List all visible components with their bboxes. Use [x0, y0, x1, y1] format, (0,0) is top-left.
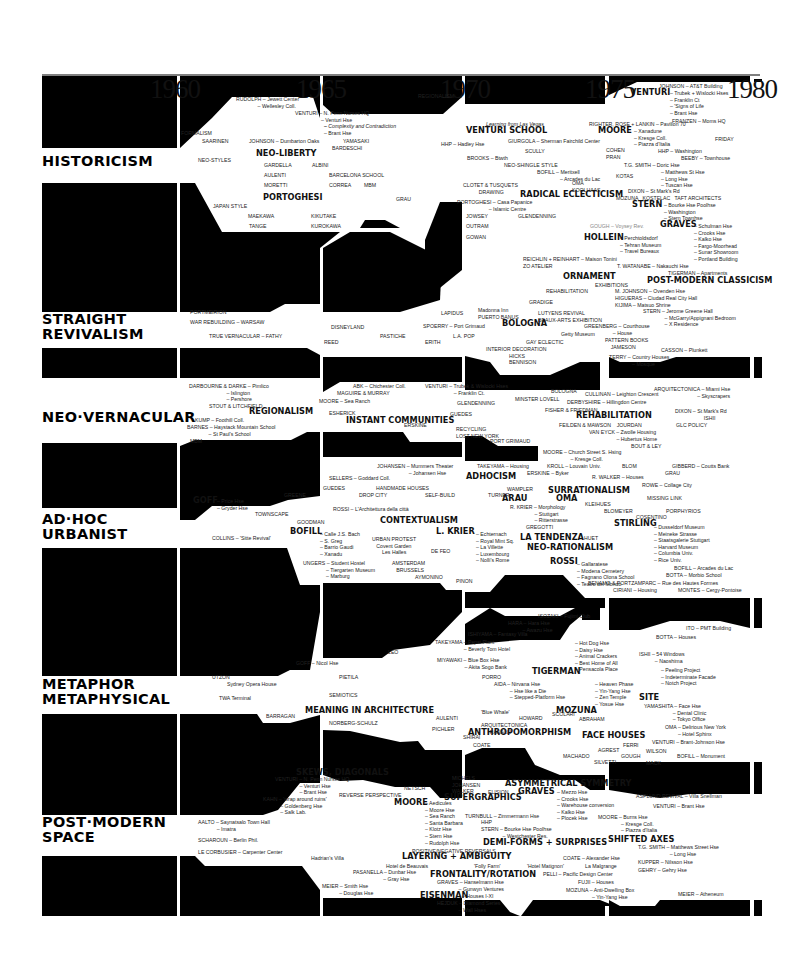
architect-label: T.G. SMITH – Doric Hse	[624, 162, 680, 169]
movement-label: SHIFTED AXES	[608, 835, 674, 844]
architect-label: ALBINI	[312, 162, 328, 169]
architect-label: MOZUNA – Anti-Dwelling Box – Yin-Yang Hs…	[566, 887, 634, 900]
architect-label: GIBBERD – Coutts Bank	[672, 463, 729, 470]
architect-label: HOWARD	[519, 715, 542, 722]
architect-label: BROOKS – Btwth	[467, 155, 508, 162]
architect-label: TANGE	[249, 223, 266, 230]
architect-label: 'Blue Whale'	[481, 709, 510, 716]
architect-label: BEEBY – Townhouse	[681, 155, 730, 162]
architect-label: DE FEO	[431, 548, 450, 555]
architect-label: PORTMEIRION	[190, 309, 227, 316]
architect-label: AALTO – Saynatsalo Town Hall – Imatra	[198, 819, 270, 832]
architect-label: RUDOLPH – Jewett Center – Wellesley Coll…	[236, 96, 299, 109]
architect-label: FORMALISM	[181, 130, 212, 137]
architect-label: LUTYENS REVIVAL BEAUX-ARTS EXHIBITION	[538, 310, 602, 323]
architect-label: GUEDES	[323, 485, 345, 492]
architect-label: REICHLIN + REINHART – Maison Tonini	[523, 256, 617, 263]
architect-label: BARNES – Haystack Mountain School – St P…	[187, 424, 276, 437]
architect-label: CULLINAN – Leighton Crescent	[585, 391, 659, 398]
movement-label: ROSSI	[550, 557, 578, 566]
category-heading: POST·MODERN SPACE	[42, 815, 166, 845]
movement-label: CONTEXTUALISM	[380, 516, 458, 525]
architect-label: GOFF – Nicol Hse	[296, 660, 338, 667]
architect-label: TRUE VERNACULAR – FATHY	[209, 333, 282, 340]
architect-label: YAMASHITA – Face Hse – Dental Clinic – T…	[644, 703, 706, 723]
movement-label: FACE HOUSES	[582, 731, 645, 740]
architect-label: URBAN PROTEST Covent Garden Les Halles	[372, 536, 416, 556]
architect-label: DISNEYLAND	[331, 324, 364, 331]
architect-label: ISOZAKI – Fujimi Club	[538, 613, 590, 620]
category-heading: NEO·VERNACULAR	[42, 410, 196, 425]
movement-label: DEMI-FORMS + SURPRISES	[483, 838, 607, 847]
movement-label: NEO-LIBERTY	[256, 149, 317, 158]
architect-label: TIGERMAN – Apartments	[668, 270, 727, 277]
architect-label: SHIRAI	[463, 734, 480, 741]
architect-label: SCOLARI	[552, 711, 575, 718]
architect-label: ROWE – Collage City	[642, 482, 692, 489]
architect-label: JOHNSON – Dumbarton Oaks	[249, 138, 319, 145]
architect-label: AMSTERDAM BRUSSELS	[392, 560, 425, 573]
movement-label: MEANING IN ARCHITECTURE	[305, 706, 434, 715]
architect-label: KUPPER – Nilsson Hse	[638, 859, 693, 866]
architect-label: AULENTI	[264, 172, 286, 179]
category-heading: METAPHOR METAPHYSICAL	[42, 677, 170, 707]
movement-label: GRAVES	[518, 787, 555, 796]
architect-label: MOORE – Sea Ranch	[319, 398, 370, 405]
architect-label: PATTERN BOOKS JAMESON	[605, 337, 648, 350]
architect-label: DIXON – St Mark's Rd ISHII	[675, 408, 727, 421]
architect-label: – Price Hse – Gryder Hse	[217, 498, 248, 511]
architect-label: GEHRY – Gehry Hse	[638, 867, 687, 874]
architect-label: SILVETTI	[594, 759, 616, 766]
architect-label: HHP – Hadley Hse	[441, 141, 484, 148]
movement-label: L. KRIER	[436, 527, 475, 536]
architect-label: ABK – Chichester Coll.	[353, 383, 406, 390]
architect-label: FEILDEN & MAWSON JOURDAN	[559, 422, 642, 429]
architect-label: KUMP – Foothill Coll.	[195, 417, 244, 424]
movement-label: GOFF	[193, 496, 218, 505]
architect-label: NETSCH	[404, 785, 425, 792]
architect-label: BOLOGNA	[551, 388, 577, 395]
architect-label: GRAU	[665, 470, 680, 477]
movement-label: LA TENDENZA	[520, 533, 584, 542]
architect-label: KAHN – 'wrap around ruins' – Goldenberg …	[263, 796, 327, 816]
architect-label: GREENE	[284, 492, 306, 499]
architect-label: STOUT & LITCHFIELD	[209, 403, 262, 410]
architect-label: La Malgrange	[585, 863, 617, 870]
movement-label: OMA	[556, 494, 577, 503]
architect-label: – Dusseldorf Museum – Meineke Strasse – …	[654, 524, 710, 564]
architect-label: CORREA	[329, 182, 351, 189]
architect-label: OMA – Delirious New York – Hotel Sphinx	[665, 724, 726, 737]
architect-label: PORPHYRIOS	[666, 508, 701, 515]
architect-label: ISHII – 54 Windows – Naoshima	[639, 651, 685, 664]
architect-label: GRADIGE	[529, 299, 553, 306]
architect-label: PELLI – Pacific Design Center	[543, 871, 613, 878]
year-label: 1970	[440, 74, 490, 105]
movement-label: POST-MODERN CLASSICISM	[647, 276, 772, 285]
architect-label: GREGOTTI	[526, 524, 553, 531]
architect-label: GARDELLA	[264, 162, 292, 169]
architect-label: NORBERG-SCHULZ	[329, 720, 378, 727]
architect-label: AIDA – Nirvana Hse – Hse like a Die – St…	[494, 681, 565, 701]
architect-label: MISSING LINK	[647, 495, 682, 502]
architect-label: JAPAN STYLE	[213, 203, 247, 210]
architect-label: ERITH	[425, 339, 441, 346]
category-heading: HISTORICISM	[42, 154, 153, 169]
architect-label: TURNBULL – Zimmermann Hse	[465, 813, 539, 820]
architect-label: GOUGH	[621, 753, 641, 760]
architect-label: TAKEYAMA – Housing	[477, 463, 529, 470]
architect-label: ARQUITECTONICA – Miami Hse – Skyscrapers	[654, 386, 730, 399]
architect-label: FERRI	[623, 742, 639, 749]
architect-label: PICHLER	[432, 726, 455, 733]
architect-label: Hadrian's Villa	[311, 855, 344, 862]
architect-label: ERSKINE	[404, 422, 427, 429]
architect-label: ASPLUND REVIVAL – Villa Snellman	[636, 793, 722, 800]
architect-label: MACK	[646, 760, 661, 767]
architect-label: PORRO	[482, 674, 501, 681]
architect-label: DERBYSHIRE – Hillingdon Centre	[567, 399, 646, 406]
architect-label: PORTOGHESI – Casa Papanice – Islamic Cen…	[457, 199, 532, 212]
architect-label: PASTICHE	[380, 333, 406, 340]
architect-label: – Houses I-XI	[462, 893, 493, 900]
architect-label: ELISION	[488, 789, 508, 796]
architect-label: NEO-STYLES	[198, 157, 231, 164]
architect-label: WAR REBUILDING – WARSAW	[190, 319, 264, 326]
